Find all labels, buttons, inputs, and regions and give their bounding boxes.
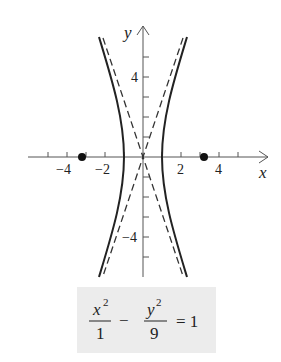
eq-exp2: 2 [156,296,162,308]
eq-num1: x [92,300,101,319]
eq-rhs: = 1 [176,312,198,331]
eq-den2: 9 [150,324,159,343]
eq-den1: 1 [96,324,105,343]
eq-num2: y [145,300,155,319]
eq-exp1: 2 [103,296,109,308]
equation: x 2 1 − y 2 9 = 1 [0,0,281,362]
eq-minus: − [119,311,129,330]
